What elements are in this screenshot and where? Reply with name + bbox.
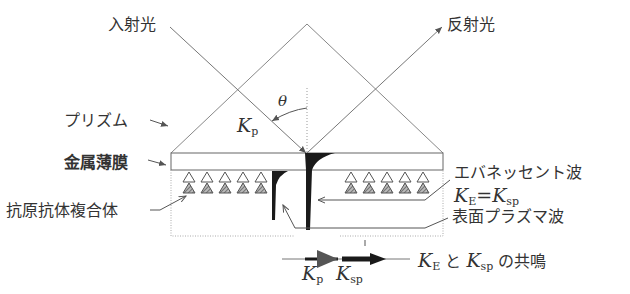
ke-equals-ksp-label: KE=Ksp xyxy=(454,184,519,208)
complex-leader xyxy=(150,196,186,210)
prism-leader xyxy=(150,120,168,126)
reflected-ray xyxy=(307,27,442,153)
antibody-complexes-right xyxy=(345,172,429,193)
spr-diagram: 入射光 反射光 プリズム 金属薄膜 抗原抗体複合体 エバネッセント波 表面プラズ… xyxy=(0,0,630,294)
kp-label: Kp xyxy=(237,114,258,138)
evanescent-wave-label: エバネッセント波 xyxy=(454,164,582,182)
metal-leader xyxy=(148,160,166,165)
surface-plasmon-label: 表面プラズマ波 xyxy=(452,208,564,226)
theta-label: θ xyxy=(278,92,287,110)
metal-film-label: 金属薄膜 xyxy=(64,154,128,172)
prism-label: プリズム xyxy=(64,112,128,130)
reflected-light-label: 反射光 xyxy=(447,16,495,34)
evanescent-field-side xyxy=(272,171,288,220)
resonance-label: KE と Ksp の共鳴 xyxy=(418,248,546,273)
antigen-antibody-label: 抗原抗体複合体 xyxy=(6,202,118,220)
bottom-kp-label: Kp xyxy=(302,262,323,286)
incident-light-label: 入射光 xyxy=(108,16,156,34)
antibody-complexes-left xyxy=(183,172,267,193)
bottom-ksp-label: Ksp xyxy=(336,262,363,286)
